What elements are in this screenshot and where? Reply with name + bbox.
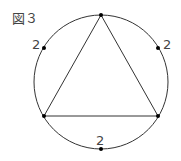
vertex-left: [42, 114, 46, 118]
arc-midpoint-upper-right: [156, 46, 160, 50]
arc-midpoint-upper-left: [42, 46, 46, 50]
arc-label-upper-right: 2: [163, 37, 171, 52]
arc-label-bottom: 2: [96, 133, 104, 148]
arc-label-upper-left: 2: [32, 37, 40, 52]
vertex-top: [99, 13, 103, 17]
figure-diagram: 図３ 2 2 2: [0, 0, 181, 161]
circle: [34, 15, 168, 149]
figure-label: 図３: [12, 11, 38, 26]
triangle: [44, 15, 158, 116]
vertex-right: [156, 114, 160, 118]
